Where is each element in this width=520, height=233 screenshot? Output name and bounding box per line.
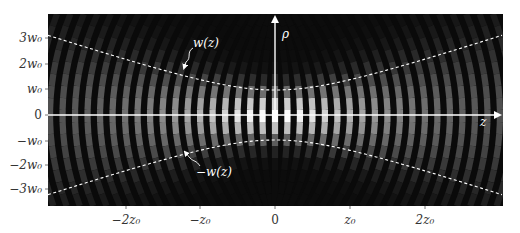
x-tick-label: 0 xyxy=(271,213,279,227)
y-tick-label: 0 xyxy=(34,108,42,122)
z-axis-label: z xyxy=(479,115,487,129)
x-tick-label: −z₀ xyxy=(189,213,210,227)
lower-envelope-label: −w(z) xyxy=(196,165,232,179)
gaussian-beam-diagram: z ρ w(z) −w(z) −2z₀−z₀0z₀2z₀ 3w₀2w₀w₀0−w… xyxy=(0,0,520,233)
x-tick-marks: −2z₀−z₀0z₀2z₀ xyxy=(112,206,435,227)
y-tick-label: −w₀ xyxy=(17,134,42,148)
y-tick-label: −2w₀ xyxy=(9,158,42,172)
x-tick-label: 2z₀ xyxy=(415,213,435,227)
y-tick-label: 2w₀ xyxy=(18,57,42,71)
y-tick-marks: 3w₀2w₀w₀0−w₀−2w₀−3w₀ xyxy=(9,31,48,196)
y-tick-label: 3w₀ xyxy=(19,31,42,45)
y-tick-label: w₀ xyxy=(27,82,42,96)
rho-axis-label: ρ xyxy=(281,27,289,41)
x-tick-label: −2z₀ xyxy=(112,213,141,227)
upper-envelope-label: w(z) xyxy=(193,36,219,50)
y-tick-label: −3w₀ xyxy=(9,182,42,196)
x-tick-label: z₀ xyxy=(343,213,355,227)
